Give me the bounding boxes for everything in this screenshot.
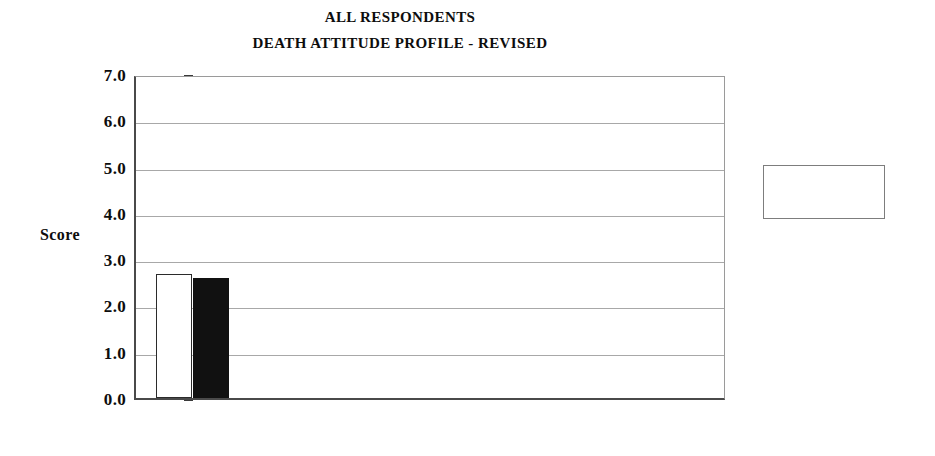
y-axis-tick-label: 2.0: [64, 297, 126, 317]
y-axis-tick-label: 6.0: [64, 112, 126, 132]
y-axis-tick-label: 0.0: [64, 390, 126, 410]
bar-time-two[interactable]: [193, 278, 229, 398]
bar-time-one[interactable]: [156, 274, 192, 398]
chart-legend: [763, 165, 885, 219]
x-axis-labels: [134, 408, 725, 456]
plot-area: [134, 76, 725, 400]
y-axis-labels: 7.06.05.04.03.02.01.00.0: [58, 0, 126, 456]
y-axis-tick-label: 3.0: [64, 251, 126, 271]
bar-group: [136, 77, 254, 398]
y-axis-tick-label: 5.0: [64, 159, 126, 179]
y-axis-tick-label: 1.0: [64, 344, 126, 364]
y-axis-tick-label: 4.0: [64, 205, 126, 225]
y-axis-tick-label: 7.0: [64, 66, 126, 86]
